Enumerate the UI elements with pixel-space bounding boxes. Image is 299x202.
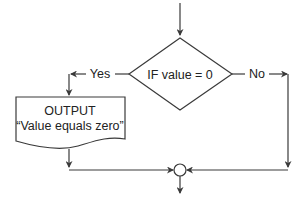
decision-node: IF value = 0	[129, 38, 232, 110]
yes-label: Yes	[90, 67, 110, 81]
output-text: “Value equals zero”	[16, 119, 123, 133]
no-label: No	[249, 67, 265, 81]
output-title: OUTPUT	[44, 104, 96, 118]
merge-connector-circle	[174, 164, 186, 176]
flowchart-canvas: IF value = 0 Yes OUTPUT “Value equals ze…	[0, 0, 299, 202]
output-node: OUTPUT “Value equals zero”	[16, 97, 125, 148]
decision-label: IF value = 0	[147, 68, 213, 82]
